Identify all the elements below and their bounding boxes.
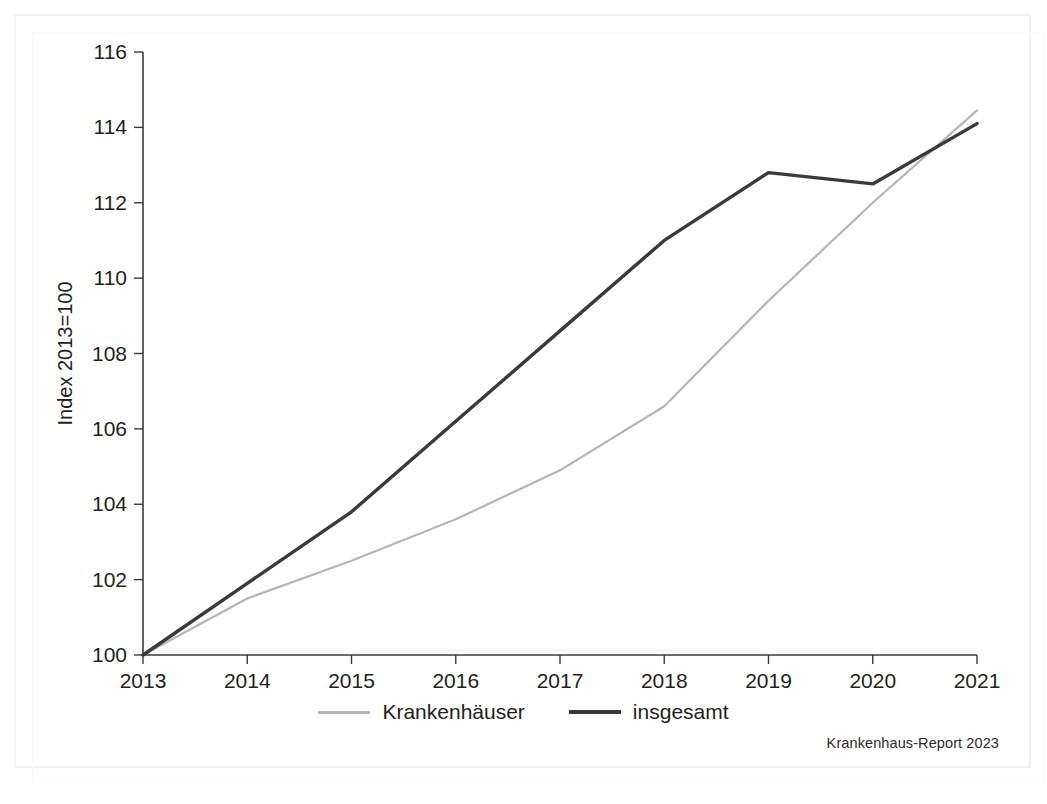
chart-legend: Krankenhäuser insgesamt — [0, 700, 1047, 724]
line-chart: 100102104106108110112114116 201320142015… — [0, 0, 1047, 804]
series-lines — [143, 110, 977, 655]
y-tick-label: 100 — [92, 643, 127, 666]
legend-label: Krankenhäuser — [382, 700, 524, 724]
x-tick-label: 2021 — [954, 669, 1001, 692]
x-tick-label: 2014 — [224, 669, 271, 692]
legend-item-krankenhaeuser: Krankenhäuser — [318, 700, 524, 724]
series-line-insgesamt — [143, 124, 977, 655]
x-tick-label: 2017 — [537, 669, 584, 692]
x-tick-label: 2013 — [120, 669, 167, 692]
x-axis: 201320142015201620172018201920202021 — [120, 655, 1001, 692]
legend-item-insgesamt: insgesamt — [569, 700, 729, 724]
y-tick-label: 108 — [92, 342, 127, 365]
x-tick-label: 2018 — [641, 669, 688, 692]
y-axis-title: Index 2013=100 — [54, 281, 76, 425]
y-tick-label: 114 — [94, 115, 128, 138]
x-tick-label: 2015 — [328, 669, 375, 692]
y-tick-label: 102 — [92, 568, 127, 591]
y-tick-label: 110 — [94, 266, 127, 289]
legend-swatch-line-icon — [318, 711, 370, 714]
x-tick-label: 2020 — [849, 669, 896, 692]
x-tick-label: 2016 — [432, 669, 479, 692]
x-tick-label: 2019 — [745, 669, 792, 692]
y-axis: 100102104106108110112114116 — [92, 40, 143, 666]
y-axis-title-text: Index 2013=100 — [54, 281, 76, 425]
y-tick-label: 112 — [94, 191, 127, 214]
y-tick-label: 106 — [92, 417, 127, 440]
chart-svg: 100102104106108110112114116 201320142015… — [0, 0, 1047, 804]
source-note: Krankenhaus-Report 2023 — [827, 735, 999, 751]
series-line-krankenh-user — [143, 110, 977, 655]
y-tick-label: 116 — [94, 40, 127, 63]
y-tick-label: 104 — [92, 492, 127, 515]
legend-swatch-line-icon — [569, 710, 621, 714]
legend-label: insgesamt — [633, 700, 729, 724]
figure-root: 100102104106108110112114116 201320142015… — [0, 0, 1047, 804]
